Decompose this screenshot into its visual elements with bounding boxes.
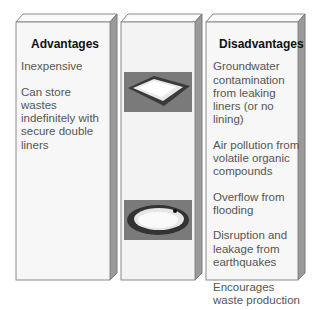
disadvantage-item: Encourages waste production xyxy=(213,281,305,308)
advantages-content: Advantages Inexpensive Can store wastes … xyxy=(21,38,109,164)
disadvantages-content: Disadvantages Groundwater contamination … xyxy=(213,38,305,310)
disadvantages-heading: Disadvantages xyxy=(213,38,305,51)
oval-lined-pond-icon xyxy=(124,200,192,240)
advantages-heading: Advantages xyxy=(21,38,109,51)
disadvantage-item: Air pollution from volatile organic comp… xyxy=(213,139,305,179)
advantage-item: Inexpensive xyxy=(21,60,109,73)
advantage-item: Can store wastes indefinitely with secur… xyxy=(21,86,109,152)
disadvantage-item: Groundwater contamination from leaking l… xyxy=(213,60,305,126)
disadvantage-item: Overflow from flooding xyxy=(213,191,305,218)
rectangular-lined-pond-icon xyxy=(124,72,192,112)
disadvantage-item: Disruption and leakage from earthquakes xyxy=(213,229,305,269)
